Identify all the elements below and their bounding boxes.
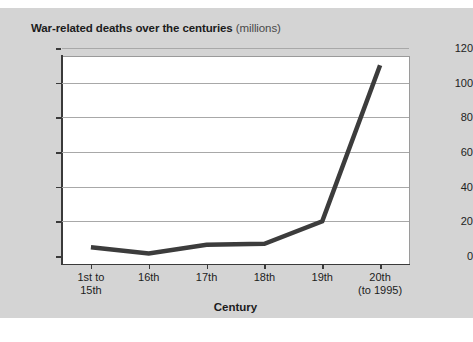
x-tick-mark — [149, 264, 151, 269]
x-tick-mark — [91, 264, 93, 269]
x-tick-mark — [264, 264, 266, 269]
gridline — [62, 187, 409, 188]
chart-title: War-related deaths over the centuries (m… — [31, 22, 281, 34]
y-tick-label: 40 — [421, 181, 473, 193]
gridline — [62, 152, 409, 153]
y-tick-mark — [56, 83, 61, 85]
y-tick-label: 120 — [421, 42, 473, 54]
gridline — [62, 117, 409, 118]
y-axis-line — [61, 55, 63, 265]
y-tick-mark — [56, 187, 61, 189]
chart-title-units: (millions) — [236, 22, 281, 34]
x-axis-line — [61, 264, 410, 266]
x-tick-mark — [380, 264, 382, 269]
x-tick-label-line: 15th — [46, 284, 136, 297]
y-tick-mark — [56, 117, 61, 119]
y-tick-label: 0 — [421, 250, 473, 262]
y-tick-mark — [56, 48, 61, 50]
gridline — [62, 221, 409, 222]
chart-panel: War-related deaths over the centuries (m… — [0, 8, 473, 318]
x-axis-title: Century — [62, 301, 409, 313]
y-tick-mark — [56, 221, 61, 223]
y-tick-label: 20 — [421, 215, 473, 227]
gridline — [62, 48, 409, 49]
x-tick-mark — [322, 264, 324, 269]
x-tick-label: 20th(to 1995) — [335, 271, 425, 297]
y-tick-label: 60 — [421, 146, 473, 158]
x-tick-mark — [207, 264, 209, 269]
x-tick-label-line: 20th — [335, 271, 425, 284]
y-tick-mark — [56, 152, 61, 154]
gridline — [62, 83, 409, 84]
plot-area — [62, 56, 410, 265]
x-tick-label-line: (to 1995) — [335, 284, 425, 297]
y-tick-mark — [56, 256, 61, 258]
y-tick-label: 80 — [421, 111, 473, 123]
y-tick-label: 100 — [421, 77, 473, 89]
chart-title-text: War-related deaths over the centuries — [31, 22, 233, 34]
